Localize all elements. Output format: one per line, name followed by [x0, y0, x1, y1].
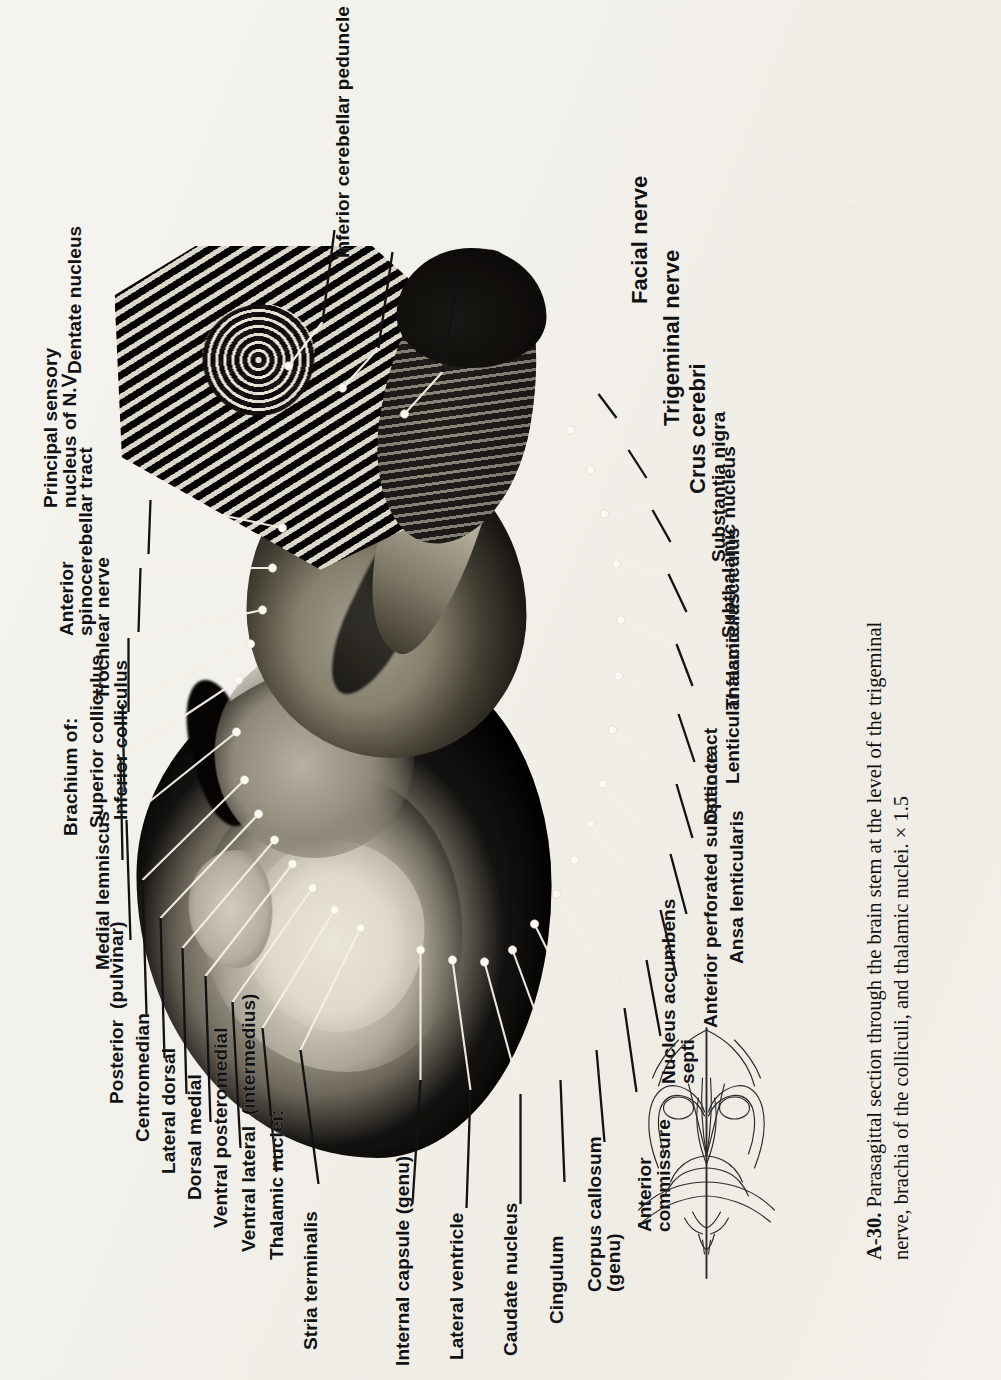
dentate-nucleus-region	[202, 304, 314, 416]
medulla-region	[396, 248, 546, 368]
label-trigeminal-nerve: Trigeminal nerve	[660, 250, 683, 426]
label-substantia-nigra: Substantia nigra	[708, 412, 728, 562]
label-brachium-of: Brachium of:	[60, 718, 80, 836]
figure-caption-line1: Parasagittal section through the brain s…	[862, 622, 884, 1208]
label-crus-cerebri: Crus cerebri	[686, 363, 709, 494]
figure-caption-line2: nerve, brachia of the colliculi, and tha…	[889, 843, 911, 1260]
lentiform-region	[246, 840, 424, 1032]
label-stria-terminalis: Stria terminalis	[300, 1211, 320, 1350]
label-optic-tract: Optic tract	[700, 728, 720, 824]
label-ansa-lenticularis: Ansa lenticularis	[726, 810, 746, 964]
label-principal-sensory-line1: Principal sensory	[39, 348, 60, 508]
label-ventral-posteromedial: Ventral posteromedial	[210, 1027, 230, 1228]
label-principal-sensory-line2: nucleus of N.Ⅴ	[58, 374, 79, 508]
photo-canvas	[96, 253, 566, 1158]
label-lateral-ventricle: Lateral ventricle	[446, 1213, 466, 1360]
plate-stage: Stria terminalis Internal capsule (genu)…	[0, 0, 1001, 1380]
label-cingulum: Cingulum	[546, 1236, 566, 1324]
label-thalamic-nuclei-header: Thalamic nuclei:	[266, 1110, 286, 1260]
label-medial-lemniscus: Medial lemniscus	[92, 811, 112, 970]
label-internal-capsule: Internal capsule (genu)	[392, 1156, 412, 1366]
figure-caption: A-30. Parasagittal section through the b…	[860, 80, 915, 1260]
brain-stem-orientation-diagram	[606, 1022, 812, 1284]
label-inferior-colliculus: Inferior colliculus	[110, 660, 130, 820]
label-anterior-spino-line1: Anterior	[55, 561, 76, 636]
label-inferior-cerebellar-peduncle: Inferior cerebellar peduncle	[332, 6, 352, 258]
label-ventral-lateral: Ventral lateral (intermedius)	[238, 993, 258, 1252]
specimen-photograph	[96, 253, 566, 1158]
label-dentate-nucleus: Dentate nucleus	[64, 226, 84, 374]
figure-number: A-30.	[862, 1213, 884, 1260]
figure-magnification: × 1.5	[889, 796, 911, 838]
label-corpus-callosum-line1: Corpus callosum	[583, 1136, 604, 1292]
label-centromedian: Centromedian	[132, 1013, 152, 1142]
label-facial-nerve: Facial nerve	[628, 176, 651, 304]
label-lateral-dorsal: Lateral dorsal	[158, 1048, 178, 1174]
label-caudate-nucleus: Caudate nucleus	[500, 1202, 520, 1356]
label-dorsal-medial: Dorsal medial	[184, 1074, 204, 1200]
